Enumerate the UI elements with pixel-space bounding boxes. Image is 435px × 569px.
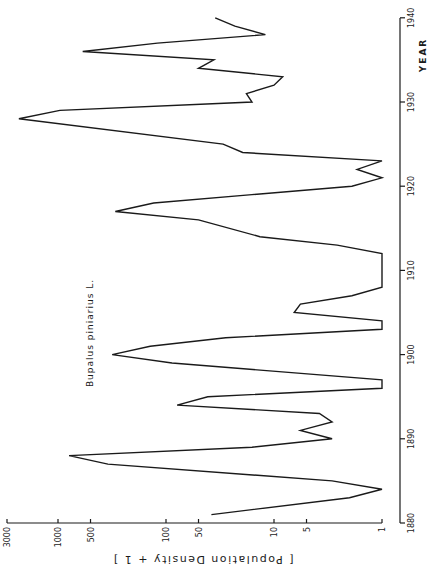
value-tick-label: 1000	[54, 527, 63, 547]
year-axis-title: YEAR	[418, 38, 428, 74]
year-tick-label: 1920	[407, 176, 416, 196]
value-tick-label: 3000	[3, 527, 12, 547]
population-density-chart: 15105010050010003000 [ Population Densit…	[0, 0, 435, 569]
year-tick-label: 1900	[407, 344, 416, 364]
year-tick-label: 1910	[407, 260, 416, 280]
value-tick-label: 50	[195, 527, 204, 537]
value-tick-label: 500	[87, 527, 96, 542]
year-axis-ticks: 1880189019001910192019301940	[400, 8, 416, 534]
year-tick-label: 1930	[407, 92, 416, 112]
value-tick-label: 10	[270, 527, 279, 537]
value-axis-title: [ Population Density + 1 ]	[113, 553, 294, 566]
value-tick-label: 5	[303, 527, 312, 532]
value-tick-label: 100	[162, 527, 171, 542]
population-density-line	[19, 18, 382, 515]
species-label: Bupalus piniarius L.	[85, 279, 95, 387]
year-tick-label: 1880	[407, 513, 416, 533]
value-tick-label: 1	[378, 527, 387, 532]
year-tick-label: 1890	[407, 429, 416, 449]
year-tick-label: 1940	[407, 8, 416, 28]
